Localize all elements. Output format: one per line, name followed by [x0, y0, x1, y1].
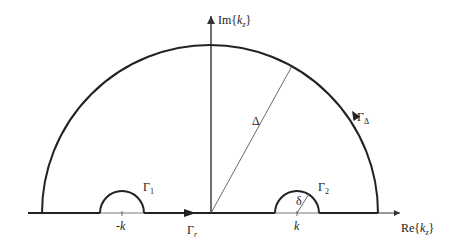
radius-line-delta — [211, 66, 292, 213]
pos-k-label: k — [294, 220, 299, 232]
gamma-r-label: Γr — [187, 224, 197, 239]
contour-diagram — [0, 0, 457, 248]
gamma-1-label: Γ1 — [143, 181, 154, 196]
small-radius-label: δ — [296, 195, 302, 207]
big-radius-label: Δ — [252, 115, 260, 127]
contour-gamma-1 — [100, 191, 144, 213]
gamma-delta-label: ΓΔ — [357, 111, 369, 126]
gamma-2-label: Γ2 — [318, 181, 329, 196]
real-axis-label: Re{kz} — [401, 222, 434, 237]
imaginary-axis-label: Im{kz} — [218, 14, 251, 29]
gamma-r-arrow-icon — [184, 209, 196, 217]
neg-k-label: -k — [116, 220, 125, 232]
